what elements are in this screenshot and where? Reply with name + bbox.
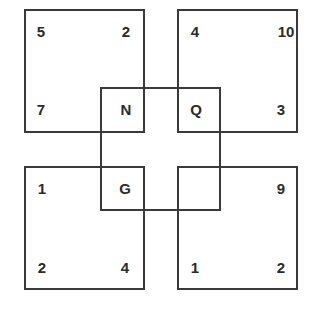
top-left-value-tl: 5 <box>37 24 45 39</box>
top-left-value-br: N <box>121 102 132 117</box>
bottom-right-value-bl: 1 <box>191 260 199 275</box>
bottom-right-value-tr: 9 <box>277 181 285 196</box>
square-center <box>100 87 221 211</box>
top-left-value-tr: 2 <box>122 24 130 39</box>
top-left-value-bl: 7 <box>37 102 45 117</box>
bottom-left-value-br: 4 <box>121 260 129 275</box>
bottom-left-value-bl: 2 <box>38 260 46 275</box>
bottom-left-value-tl: 1 <box>38 181 46 196</box>
top-right-value-tl: 4 <box>191 24 199 39</box>
top-right-value-bl: Q <box>190 102 202 117</box>
top-right-value-tr: 10 <box>278 24 295 39</box>
top-right-value-br: 3 <box>277 102 285 117</box>
bottom-right-value-br: 2 <box>277 260 285 275</box>
bottom-left-value-tr: G <box>119 181 131 196</box>
